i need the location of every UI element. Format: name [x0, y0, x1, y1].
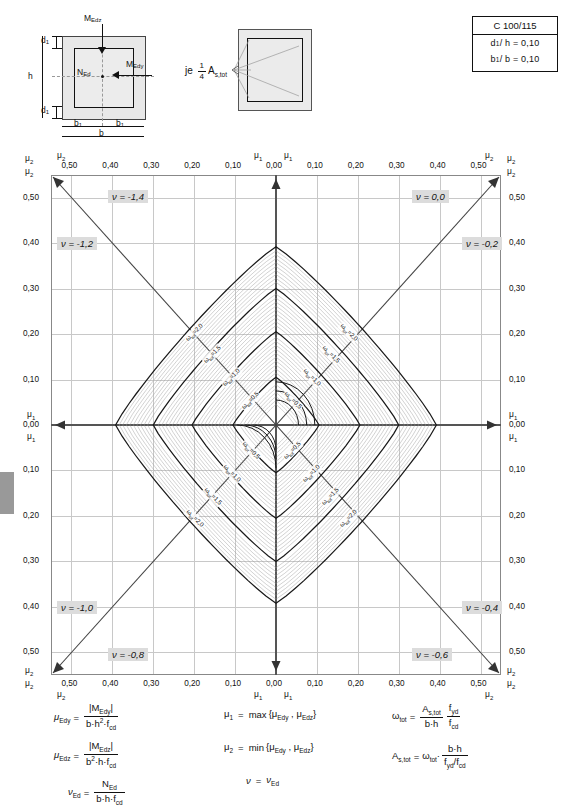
formula-nu: ν = νEd: [246, 774, 316, 787]
m-edz-sub: Edz: [91, 17, 101, 23]
corner-mu2-top-left-outer: μ2: [25, 153, 33, 165]
as-tot-num: b·h: [442, 743, 468, 756]
nu-label--1,2: ν = -1,2: [57, 237, 97, 250]
formula-mu-edz: μEdz = |MEdz| b2·h·fcd: [54, 740, 127, 770]
y-tick-left-0,30: 0,30: [23, 556, 39, 565]
nu-ed-den: b·h·fcd: [94, 793, 124, 805]
y-tick-left-0,50: 0,50: [23, 647, 39, 656]
y-tick-right-0,20: 0,20: [509, 511, 525, 520]
chart-grid: [51, 175, 501, 675]
y-tick-right-0,30: 0,30: [509, 556, 525, 565]
cross-section-figure: MEdz MEdy NEd d1 d1 h b1 b1 b: [22, 20, 162, 138]
reinforcement-figure: je 1 4 As,tot: [185, 24, 317, 116]
as-tot-sub: s,tot: [398, 756, 410, 763]
d1-bottom-label: d1: [41, 106, 49, 115]
x-tick-bottom-zero: 0,00: [266, 679, 282, 688]
ratio-d1-h: d1/ h = 0,10: [473, 35, 557, 51]
y-tick-right-0,50: 0,50: [509, 647, 525, 656]
n-ed-sub: Ed: [83, 71, 90, 77]
x-tick-bottom-0,20: 0,20: [348, 679, 364, 688]
y-axis-mu1-bottom-right: μ1: [509, 431, 517, 443]
y-tick-left-0,10: 0,10: [23, 375, 39, 384]
corner-mu2-bottom-right-inner: μ2: [507, 665, 515, 677]
y-tick-right-0,50: 0,50: [509, 193, 525, 202]
d1-bottom-dimline: [56, 106, 57, 118]
x-tick-bottom-0,10: 0,10: [225, 679, 241, 688]
mu2-op: min: [249, 742, 264, 753]
nu-ed-num: NEd: [94, 778, 124, 793]
x-tick-top-0,50: 0,50: [61, 161, 77, 170]
m-edz-label: MEdz: [84, 14, 101, 23]
ratio-b1-b: b1/ b = 0,10: [473, 51, 557, 67]
omega-den2: fcd: [447, 717, 461, 731]
x-tick-top-0,10: 0,10: [307, 161, 323, 170]
mu-edz-den: b2·h·fcd: [84, 755, 118, 770]
formula-mu2: μ2 = min {μEdy , μEdz}: [224, 741, 316, 754]
corner-mu2-bottom-left-outer: μ2: [25, 678, 33, 690]
corner-mu2-bottom-left-inner: μ2: [25, 665, 33, 677]
y-tick-right-0,40: 0,40: [509, 602, 525, 611]
x-tick-top-zero: 0,00: [266, 161, 282, 170]
formula-omega-tot: ωtot = As,tot b·h fyd fcd: [392, 702, 470, 731]
x-axis-mu1-left-top: μ1: [254, 150, 262, 162]
mu1-op: max: [249, 709, 267, 720]
interaction-diagram: ν = -1,4ν = -1,2ν = 0,0ν = -0,2ν = -1,0ν…: [51, 175, 501, 675]
y-tick-left-0,40: 0,40: [23, 238, 39, 247]
b1-left-label: b1: [74, 119, 82, 128]
formula-nu-ed: νEd = NEd b·h·fcd: [68, 778, 127, 805]
x-tick-top-0,20: 0,20: [184, 161, 200, 170]
y-tick-right-0,40: 0,40: [509, 238, 525, 247]
y-tick-left-0,20: 0,20: [23, 329, 39, 338]
mu-edz-num: |MEdz|: [84, 740, 118, 755]
nu-label--0,8: ν = -0,8: [108, 648, 148, 661]
x-axis-mu2-left-bottom: μ2: [57, 689, 65, 701]
formula-mu1: μ1 = max {μEdy , μEdz}: [224, 708, 316, 721]
b-label: b: [99, 129, 104, 138]
b1-left-sub: 1: [79, 122, 82, 128]
mu2-sub: 2: [229, 747, 233, 754]
corner-mu2-top-right-inner: μ2: [507, 166, 515, 178]
mu1-sub: 1: [229, 714, 233, 721]
d1-top-sub: 1: [46, 39, 49, 45]
nu-label--0,2: ν = -0,2: [462, 237, 502, 250]
corner-mu2-bottom-right-outer: μ2: [507, 678, 515, 690]
mu-edy-den: b·h2·fcd: [84, 717, 118, 732]
m-edz-arrow-head: [98, 47, 106, 54]
y-tick-left-0,40: 0,40: [23, 602, 39, 611]
ratio-b1-b-rest: / b = 0,10: [500, 54, 540, 64]
y-tick-right-0,10: 0,10: [509, 375, 525, 384]
concrete-class-value: C 100/115: [473, 17, 557, 35]
axis-horizontal: [51, 424, 501, 426]
x-axis-mu1-right-bottom: μ1: [284, 689, 292, 701]
y-tick-left-0,50: 0,50: [23, 193, 39, 202]
b1-right-sub: 1: [121, 122, 124, 128]
y-tick-left-0,20: 0,20: [23, 511, 39, 520]
x-tick-bottom-0,50: 0,50: [61, 679, 77, 688]
reinf-symbol-sub: s,tot: [215, 71, 227, 78]
y-tick-left-zero: 0,00: [23, 420, 39, 429]
x-axis-mu2-right-bottom: μ2: [485, 689, 493, 701]
x-tick-bottom-0,10: 0,10: [307, 679, 323, 688]
m-edy-arrow-head: [112, 71, 119, 79]
y-tick-left-0,30: 0,30: [23, 284, 39, 293]
reinf-note-prefix: je: [185, 65, 193, 76]
d1-top-dimline: [56, 36, 57, 48]
omega-num2: fyd: [447, 702, 461, 717]
nu-label--0,6: ν = -0,6: [412, 648, 452, 661]
nu-label-0: ν = 0,0: [412, 190, 449, 203]
x-axis-mu2-left-top: μ2: [57, 150, 65, 162]
y-tick-left-0,10: 0,10: [23, 465, 39, 474]
x-tick-top-0,40: 0,40: [102, 161, 118, 170]
concrete-class-infobox: C 100/115 d1/ h = 0,10 b1/ b = 0,10: [472, 16, 558, 72]
x-tick-bottom-0,20: 0,20: [184, 679, 200, 688]
dim-tick-3: [52, 106, 62, 107]
x-tick-top-0,30: 0,30: [143, 161, 159, 170]
x-tick-top-0,30: 0,30: [389, 161, 405, 170]
page-edge-tab: [0, 472, 14, 514]
nu-label--1: ν = -1,0: [57, 601, 97, 614]
y-tick-right-0,30: 0,30: [509, 284, 525, 293]
x-tick-top-0,50: 0,50: [471, 161, 487, 170]
mu-edy-num: |MEdy|: [84, 702, 118, 717]
nu-ed-sub: Ed: [73, 792, 81, 799]
mu-edy-sub: Edy: [59, 717, 70, 724]
